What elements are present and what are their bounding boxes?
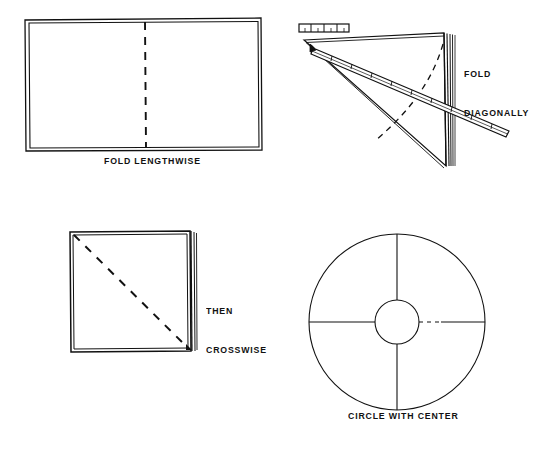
small-ruler-icon: [299, 24, 349, 32]
fold-line-vertical-dashed: [145, 22, 146, 147]
inner-circle-center: [375, 300, 419, 344]
caption-then-crosswise-line2: CROSSWISE: [206, 343, 267, 356]
folding-instructions-svg: [0, 0, 538, 455]
caption-fold-diagonally-line2: DIAGONALLY: [464, 106, 529, 119]
caption-fold-lengthwise: FOLD LENGTHWISE: [104, 154, 201, 167]
rectangle-inner-edge: [29, 22, 259, 149]
panel-circle-with-center: [309, 234, 485, 410]
triangle-layered-right-edges: [444, 33, 455, 166]
panel-then-crosswise: [70, 231, 197, 352]
square-layered-right-edges: [191, 231, 197, 351]
panel-fold-lengthwise: [25, 18, 262, 151]
caption-then-crosswise: THEN CROSSWISE: [206, 278, 267, 382]
diagram-stage: FOLD LENGTHWISE FOLD DIAGONALLY THEN CRO…: [0, 0, 538, 455]
caption-fold-diagonally-line1: FOLD: [464, 67, 529, 80]
caption-then-crosswise-line1: THEN: [206, 304, 267, 317]
caption-circle-with-center: CIRCLE WITH CENTER: [348, 409, 459, 422]
caption-fold-diagonally: FOLD DIAGONALLY: [464, 41, 529, 145]
